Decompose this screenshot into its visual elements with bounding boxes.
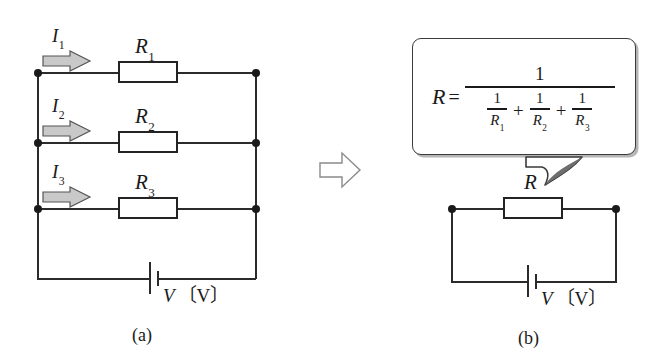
source-label-b: V〔V〕 (541, 289, 607, 308)
panel-b-battery-short-plate (535, 274, 537, 289)
term-3-subscript: 3 (585, 123, 590, 133)
panel-b-bottom-wire-left (451, 281, 527, 283)
panel-b-left-rail (451, 208, 453, 282)
formula-term-3: 1 R3 (572, 90, 592, 132)
term-2-symbol: R (533, 112, 542, 128)
panel-b-top-wire-right (561, 208, 616, 210)
formula-operator-1: + (507, 100, 530, 121)
formula-operator-2: + (550, 100, 573, 121)
resistor-label-r-equivalent: R (524, 172, 537, 193)
term-1-symbol: R (490, 112, 499, 128)
term-2-subscript: 2 (542, 123, 547, 133)
formula-main-fraction: 1 1 R1 + 1 R2 (465, 63, 615, 132)
formula-equals: = (445, 87, 464, 107)
formula-main-bar (465, 86, 615, 88)
caption-b: (b) (518, 328, 539, 349)
term-1-denominator: R1 (487, 112, 507, 131)
formula-term-2: 1 R2 (530, 90, 550, 132)
formula-term-1: 1 R1 (487, 90, 507, 132)
formula-lhs: R (432, 86, 445, 108)
term-1-bar (487, 108, 507, 110)
term-3-symbol: R (575, 112, 584, 128)
equivalent-resistance-formula: R = 1 1 R1 + 1 (432, 52, 624, 142)
panel-b-top-wire-left (451, 208, 505, 210)
resistor-r-equivalent (503, 197, 563, 219)
term-1-subscript: 1 (500, 123, 505, 133)
panel-b-node-left (448, 205, 456, 213)
source-unit-b: 〔V〕 (556, 288, 608, 309)
circuit-figure: V〔V〕 R1 I1 R2 I2 R3 (0, 0, 662, 364)
term-2-numerator: 1 (533, 90, 547, 107)
source-symbol-b: V (541, 288, 553, 309)
term-2-denominator: R2 (530, 112, 550, 131)
panel-b-right-rail (615, 208, 617, 282)
r-equivalent-symbol: R (524, 170, 537, 194)
term-3-numerator: 1 (576, 90, 590, 107)
formula-numerator: 1 (532, 63, 548, 84)
panel-b: R = 1 1 R1 + 1 (0, 0, 662, 364)
term-3-bar (572, 108, 592, 110)
term-1-numerator: 1 (490, 90, 504, 107)
panel-b-node-right (612, 205, 620, 213)
panel-b-bottom-wire-right (535, 281, 617, 283)
term-2-bar (530, 108, 550, 110)
term-3-denominator: R3 (572, 112, 592, 131)
panel-b-battery-long-plate (527, 265, 529, 297)
